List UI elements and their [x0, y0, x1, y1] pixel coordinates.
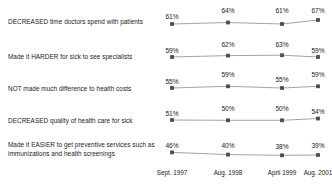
- data-label-r2-c2: 62%: [221, 41, 234, 49]
- series-line-3: [156, 74, 332, 96]
- x-tick-sept-1997: Sept. 1997: [157, 168, 187, 177]
- data-label-r3-c2: 59%: [221, 71, 234, 79]
- data-label-r2-c1: 59%: [165, 47, 178, 55]
- data-label-r5-c2: 40%: [221, 142, 234, 150]
- x-tick-april-1999: April 1999: [268, 168, 296, 177]
- series-line-4: [156, 106, 332, 128]
- series-row-easier-preventive-services: 46% 40% 38% 39%: [156, 140, 332, 162]
- series-row-harder-see-specialists: 59% 62% 63% 59%: [156, 43, 332, 65]
- data-label-r1-c1: 61%: [165, 13, 178, 21]
- data-label-r5-c1: 46%: [165, 142, 178, 150]
- health-care-opinion-trend-chart: DECREASED time doctors spend with patien…: [0, 0, 332, 188]
- category-label-no-difference-health-costs: NOT made much difference to health costs: [8, 85, 156, 94]
- data-label-r3-c3: 55%: [275, 76, 288, 84]
- series-line-2: [156, 43, 332, 65]
- data-label-r3-c4: 59%: [311, 71, 324, 79]
- category-label-decreased-quality-care: DECREASED quality of health care for sic…: [8, 117, 156, 126]
- data-label-r4-c3: 50%: [275, 105, 288, 113]
- data-label-r1-c3: 61%: [275, 7, 288, 15]
- category-label-harder-see-specialists: Made it HARDER for sick to see specialis…: [8, 53, 156, 62]
- category-label-easier-preventive-services: Made it EASIER to get preventive service…: [8, 141, 156, 158]
- series-line-5: [156, 140, 332, 162]
- data-label-r3-c1: 55%: [165, 78, 178, 86]
- data-label-r2-c4: 59%: [311, 47, 324, 55]
- x-tick-aug-1998: Aug. 1998: [214, 168, 243, 177]
- plot-area: 61% 64% 61% 67% 59% 62% 63% 59%: [156, 0, 332, 188]
- series-line-1: [156, 10, 332, 32]
- data-label-r2-c3: 63%: [275, 41, 288, 49]
- x-tick-aug-2001: Aug. 2001: [304, 168, 332, 177]
- series-row-decreased-quality-care: 51% 50% 50% 54%: [156, 106, 332, 128]
- data-label-r4-c4: 54%: [311, 108, 324, 116]
- x-axis-tick-labels: Sept. 1997 Aug. 1998 April 1999 Aug. 200…: [156, 168, 332, 180]
- series-row-decreased-doctor-time: 61% 64% 61% 67%: [156, 10, 332, 32]
- category-label-decreased-doctor-time: DECREASED time doctors spend with patien…: [8, 18, 156, 27]
- data-label-r1-c2: 64%: [221, 7, 234, 15]
- data-label-r4-c1: 51%: [165, 110, 178, 118]
- data-label-r1-c4: 67%: [311, 7, 324, 15]
- series-row-no-difference-health-costs: 55% 59% 55% 59%: [156, 74, 332, 96]
- data-label-r5-c4: 39%: [311, 142, 324, 150]
- data-label-r4-c2: 50%: [221, 105, 234, 113]
- data-label-r5-c3: 38%: [275, 143, 288, 151]
